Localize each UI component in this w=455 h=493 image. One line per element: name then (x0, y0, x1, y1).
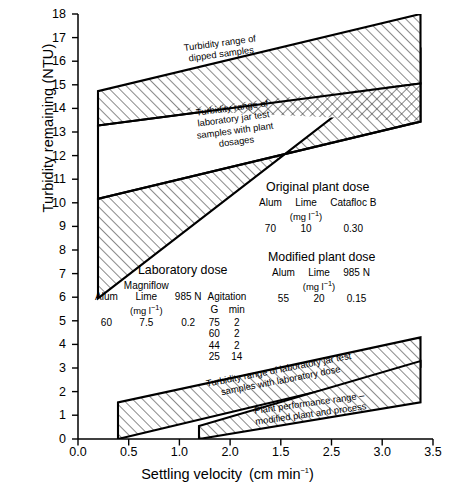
header-lime: Lime (299, 267, 339, 278)
header-lime: Lime (286, 197, 326, 208)
y-tick-7: 7 (42, 267, 66, 281)
value-catafloc-b: 0.30 (326, 223, 380, 234)
table-row-headers: Alum Lime Catafloc B (255, 197, 380, 208)
x-tick-0: 0.0 (61, 445, 95, 459)
table-row-headers: Alum Lime 985 N Agitation (92, 291, 249, 302)
value-lime: 10 (286, 223, 326, 234)
x-tick-4: 1.5 (264, 445, 298, 459)
table-modified-plant-dose: Modified plant dose Alum Lime 985 N (mg … (268, 252, 375, 304)
header-alum: Alum (255, 197, 286, 208)
agitation-min-0: 2 (224, 317, 249, 328)
table-row-unit: (mg l−1) G min (92, 302, 249, 317)
table-row-magniflow: Magniflow (92, 280, 249, 291)
y-axis-title: Turbidity remaining (NTU) (40, 18, 56, 238)
laboratory-dose-title: Laboratory dose (116, 265, 249, 277)
unit-mg-per-litre: (mg l−1) (121, 302, 172, 317)
header-985n: 985 N (172, 291, 205, 302)
turbidity-settling-velocity-chart: 18 17 16 15 14 13 12 11 10 9 8 7 6 5 4 3… (0, 0, 455, 493)
header-985n: 985 N (339, 267, 374, 278)
header-alum: Alum (268, 267, 299, 278)
agitation-min-1: 2 (224, 328, 249, 339)
y-tick-4: 4 (42, 337, 66, 351)
x-tick-1: 0.5 (112, 445, 146, 459)
y-axis-ticks (72, 14, 78, 439)
table-row-unit: (mg l−1) (255, 208, 380, 223)
agitation-g-3: 25 (205, 351, 225, 362)
y-tick-5: 5 (42, 314, 66, 328)
subheader-min: min (224, 302, 249, 317)
value-alum: 60 (92, 317, 121, 328)
table-row-agitation-1: 60 2 (92, 328, 249, 339)
value-alum: 55 (268, 293, 299, 304)
x-axis-title-exponent: −1 (301, 466, 309, 475)
unit-mg-per-litre: (mg l−1) (286, 208, 326, 223)
x-axis-title-unit: (cm min (249, 466, 301, 482)
x-tick-2: 1.0 (162, 445, 196, 459)
y-tick-3: 3 (42, 361, 66, 375)
x-tick-5: 2.5 (315, 445, 349, 459)
y-tick-6: 6 (42, 290, 66, 304)
value-lime: 7.5 (121, 317, 172, 328)
x-axis-title: Settling velocity(cm min−1) (0, 466, 455, 482)
value-lime: 20 (299, 293, 339, 304)
agitation-g-0: 75 (205, 317, 225, 328)
table-row-headers: Alum Lime 985 N (268, 267, 374, 278)
y-tick-0: 0 (42, 432, 66, 446)
subheader-g: G (205, 302, 225, 317)
table-row-agitation-3: 25 14 (92, 351, 249, 362)
table-laboratory-dose: Laboratory dose Magniflow Alum Lime 985 … (92, 265, 249, 363)
header-agitation: Agitation (205, 291, 250, 302)
header-alum: Alum (92, 291, 121, 302)
table-row-values: 60 7.5 0.2 75 2 (92, 317, 249, 328)
plot-area (0, 0, 455, 493)
x-axis-title-close: ) (309, 466, 314, 482)
y-tick-2: 2 (42, 385, 66, 399)
x-tick-3: 2.0 (213, 445, 247, 459)
original-plant-dose-title: Original plant dose (255, 182, 380, 194)
agitation-g-2: 44 (205, 340, 225, 351)
x-tick-7: 3.5 (416, 445, 450, 459)
header-catafloc-b: Catafloc B (326, 197, 380, 208)
agitation-min-2: 2 (224, 340, 249, 351)
value-985n: 0.2 (172, 317, 205, 328)
value-985n: 0.15 (339, 293, 374, 304)
agitation-g-1: 60 (205, 328, 225, 339)
y-tick-8: 8 (42, 243, 66, 257)
table-row-agitation-2: 44 2 (92, 340, 249, 351)
x-tick-6: 3.0 (365, 445, 399, 459)
x-axis-title-main: Settling velocity (141, 466, 242, 482)
table-original-plant-dose: Original plant dose Alum Lime Catafloc B… (255, 182, 380, 234)
agitation-min-3: 14 (224, 351, 249, 362)
table-row-unit: (mg l−1) (268, 278, 374, 293)
value-alum: 70 (255, 223, 286, 234)
header-magniflow: Magniflow (121, 280, 172, 291)
y-tick-1: 1 (42, 408, 66, 422)
modified-plant-dose-title: Modified plant dose (268, 252, 375, 264)
table-row-values: 55 20 0.15 (268, 293, 374, 304)
unit-mg-per-litre: (mg l−1) (299, 278, 339, 293)
header-lime: Lime (121, 291, 172, 302)
table-row-values: 70 10 0.30 (255, 223, 380, 234)
